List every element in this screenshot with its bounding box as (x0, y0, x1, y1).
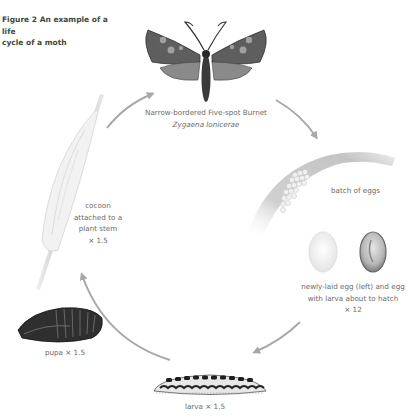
eggs-magnification: × 12 (296, 304, 410, 316)
adult-scientific-name: Zygaena lonicerae (136, 119, 276, 131)
adult-caption: Narrow-bordered Five-spot Burnet Zygaena… (136, 107, 276, 130)
cocoon-caption-line3: plant stem (62, 223, 134, 235)
arrow-eggs-to-larva (255, 322, 300, 352)
pupa-illustration (18, 308, 102, 342)
cocoon-caption-line1: cocoon (62, 200, 134, 212)
cocoon-caption-line2: attached to a (62, 212, 134, 224)
larva-illustration (154, 375, 266, 395)
eggs-caption: newly-laid egg (left) and egg with larva… (296, 281, 410, 316)
larva-caption: larva × 1.5 (170, 401, 240, 413)
egg-with-larva (360, 232, 386, 272)
scientific-name-text: Zygaena lonicerae (173, 120, 240, 129)
cocoon-illustration (36, 94, 104, 290)
adult-moth-illustration (146, 22, 267, 102)
pupa-caption: pupa × 1.5 (30, 347, 100, 359)
arrow-adult-to-eggs (276, 100, 316, 137)
eggs-caption-line1: newly-laid egg (left) and egg (296, 281, 410, 293)
eggs-magnified-illustration (309, 232, 386, 272)
cocoon-magnification: × 1.5 (62, 235, 134, 247)
egg-batch-caption: batch of eggs (318, 185, 393, 197)
newly-laid-egg (309, 232, 337, 272)
cocoon-caption: cocoon attached to a plant stem × 1.5 (62, 200, 134, 246)
adult-common-name: Narrow-bordered Five-spot Burnet (136, 107, 276, 119)
eggs-caption-line2: with larva about to hatch (296, 293, 410, 305)
